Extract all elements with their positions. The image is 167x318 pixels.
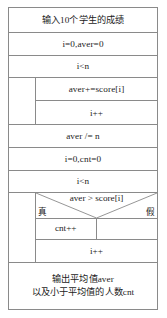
loop2-spine <box>9 193 36 262</box>
block-increment-i-1: i++ <box>36 101 157 125</box>
block-init-aver: i=0,aver=0 <box>9 33 157 56</box>
ns-flowchart: 输入10个学生的成绩 i=0,aver=0 i<n aver+=score[i]… <box>8 7 158 310</box>
loop2-body: aver > score[i] 真 假 cnt++ i++ <box>36 193 157 262</box>
loop2-condition: i<n <box>9 171 157 193</box>
branch-false-body <box>97 219 158 239</box>
output-line-1: 输出平均值aver <box>52 273 114 286</box>
block-output: 输出平均值aver 以及小于平均值的人数cnt <box>9 263 157 309</box>
branch-true-body: cnt++ <box>36 219 97 239</box>
block-compute-average: aver /= n <box>9 125 157 148</box>
selection-branches: cnt++ <box>36 219 157 240</box>
selection-condition-text: aver > score[i] <box>36 194 157 203</box>
block-accumulate: aver+=score[i] <box>36 78 157 101</box>
block-init-cnt: i=0,cnt=0 <box>9 148 157 171</box>
block-input: 输入10个学生的成绩 <box>9 8 157 33</box>
loop2-container: aver > score[i] 真 假 cnt++ i++ <box>9 193 157 263</box>
loop1-container: aver+=score[i] i++ <box>9 78 157 125</box>
loop1-condition: i<n <box>9 56 157 78</box>
selection-block: aver > score[i] 真 假 <box>36 193 157 219</box>
loop1-body: aver+=score[i] i++ <box>36 78 157 124</box>
selection-true-label: 真 <box>38 208 47 217</box>
output-line-2: 以及小于平均值的人数cnt <box>32 286 135 299</box>
block-increment-i-2: i++ <box>36 240 157 263</box>
loop1-spine <box>9 78 36 124</box>
selection-false-label: 假 <box>146 208 155 217</box>
